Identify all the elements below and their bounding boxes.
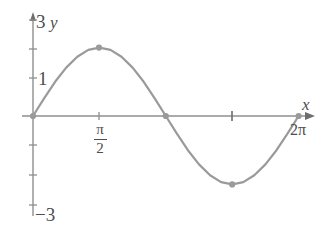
point-minimum bbox=[229, 181, 235, 187]
y-axis-title: y bbox=[50, 14, 58, 31]
y-axis-max-label: 3 bbox=[36, 12, 46, 31]
point-origin bbox=[30, 113, 36, 119]
x-axis-title: x bbox=[302, 96, 310, 113]
x-tick-label-half-pi: π 2 bbox=[89, 122, 111, 157]
half-pi-denominator: 2 bbox=[89, 141, 111, 157]
y-axis-min-label: −3 bbox=[35, 205, 55, 224]
point-maximum bbox=[96, 45, 102, 51]
plot-area bbox=[0, 0, 324, 233]
point-zero-pi bbox=[163, 113, 169, 119]
point-zero-two-pi bbox=[296, 113, 302, 119]
x-tick-label-two-pi: 2π bbox=[290, 122, 306, 138]
half-pi-numerator: π bbox=[89, 122, 111, 138]
sine-curve-figure: 3 y 1 −3 x 2π π 2 bbox=[0, 0, 324, 233]
y-axis-one-label: 1 bbox=[38, 69, 48, 88]
